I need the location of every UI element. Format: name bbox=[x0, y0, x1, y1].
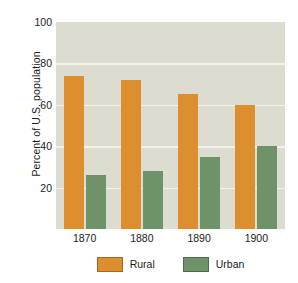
bar-group bbox=[233, 22, 279, 229]
legend-entry-rural: Rural bbox=[97, 257, 155, 272]
y-tick-label: 40 bbox=[22, 140, 52, 152]
legend-label: Rural bbox=[130, 258, 155, 270]
bar-rural-1900 bbox=[235, 105, 255, 229]
bar-urban-1890 bbox=[200, 157, 220, 229]
x-axis-tick-labels: 1870188018901900 bbox=[56, 232, 285, 248]
bar-chart-figure: Percent of U.S. population 20406080100 1… bbox=[0, 0, 298, 283]
x-tick-label: 1890 bbox=[171, 232, 228, 244]
x-tick-label: 1880 bbox=[113, 232, 170, 244]
legend-swatch-rural bbox=[97, 257, 123, 272]
x-tick-label: 1900 bbox=[228, 232, 285, 244]
bar-urban-1870 bbox=[86, 175, 106, 229]
legend-swatch-urban bbox=[183, 257, 209, 272]
bar-rural-1880 bbox=[121, 80, 141, 229]
x-tick-label: 1870 bbox=[56, 232, 113, 244]
y-tick-label: 60 bbox=[22, 99, 52, 111]
legend-entry-urban: Urban bbox=[183, 257, 245, 272]
bar-rural-1870 bbox=[64, 76, 84, 229]
y-axis-tick-labels: 20406080100 bbox=[22, 0, 52, 283]
plot-area bbox=[56, 22, 285, 229]
legend-label: Urban bbox=[216, 258, 245, 270]
bar-group bbox=[119, 22, 165, 229]
bar-group bbox=[62, 22, 108, 229]
y-tick-label: 80 bbox=[22, 57, 52, 69]
y-tick-label: 100 bbox=[22, 16, 52, 28]
bar-urban-1880 bbox=[143, 171, 163, 229]
bar-rural-1890 bbox=[178, 94, 198, 229]
bar-group bbox=[176, 22, 222, 229]
chart-legend: RuralUrban bbox=[56, 254, 285, 274]
bar-urban-1900 bbox=[257, 146, 277, 229]
y-tick-label: 20 bbox=[22, 182, 52, 194]
bars-layer bbox=[56, 22, 285, 229]
